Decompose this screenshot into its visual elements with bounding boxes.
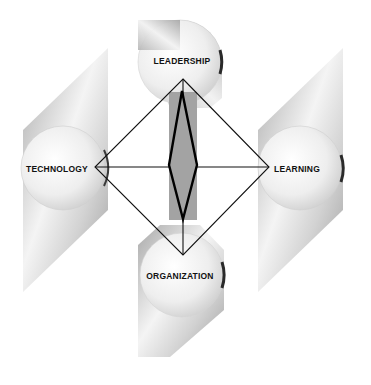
label-learning: LEARNING — [274, 164, 320, 174]
framework-diagram: LEADERSHIP TECHNOLOGY LEARNING ORGANIZAT… — [0, 0, 371, 385]
label-organization: ORGANIZATION — [146, 271, 213, 281]
label-leadership: LEADERSHIP — [154, 56, 211, 66]
label-technology: TECHNOLOGY — [26, 164, 88, 174]
organization-pillar — [138, 225, 224, 357]
